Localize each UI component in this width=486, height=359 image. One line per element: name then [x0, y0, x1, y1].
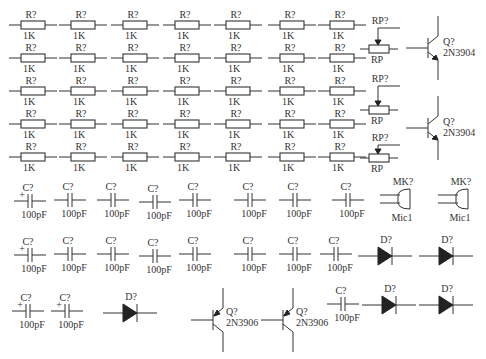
capacitor-symbol[interactable]: C?100pF	[234, 235, 267, 273]
resistor-designator: R?	[230, 9, 242, 20]
microphone-symbol[interactable]: MK?Mic1	[380, 176, 414, 223]
resistor-symbol[interactable]: R?1K	[9, 141, 57, 173]
polarized-capacitor-symbol[interactable]: +C?100pF	[14, 182, 47, 220]
npn-transistor-symbol[interactable]: Q?2N3904	[406, 96, 475, 160]
resistor-designator: R?	[127, 75, 139, 86]
resistor-symbol[interactable]: R?1K	[9, 108, 57, 140]
resistor-value: 1K	[282, 162, 295, 173]
resistor-symbol[interactable]: R?1K	[163, 9, 211, 41]
resistor-value: 1K	[332, 30, 345, 41]
diode-symbol[interactable]: D?	[103, 291, 157, 322]
resistor-symbol[interactable]: R?1K	[9, 75, 57, 107]
capacitor-designator: C?	[22, 236, 34, 247]
resistor-symbol[interactable]: R?1K	[318, 42, 366, 74]
polarized-capacitor-symbol[interactable]: +C?100pF	[14, 236, 47, 274]
resistor-symbol[interactable]: R?1K	[318, 108, 366, 140]
potentiometer-designator: RP?	[372, 73, 389, 84]
resistor-designator: R?	[75, 141, 87, 152]
capacitor-symbol[interactable]: C?100pF	[97, 235, 130, 273]
resistor-symbol[interactable]: R?1K	[111, 9, 159, 41]
resistor-value: 1K	[23, 63, 36, 74]
pnp-transistor-symbol[interactable]: Q?2N3906	[261, 288, 328, 352]
resistor-value: 1K	[228, 63, 241, 74]
capacitor-symbol[interactable]: C?100pF	[279, 235, 312, 273]
diode-designator: D?	[384, 283, 396, 294]
resistor-designator: R?	[334, 75, 346, 86]
polarized-capacitor-symbol[interactable]: +C?100pF	[51, 292, 84, 330]
resistor-symbol[interactable]: R?1K	[163, 108, 211, 140]
resistor-symbol[interactable]: R?1K	[268, 141, 316, 173]
capacitor-symbol[interactable]: C?100pF	[54, 181, 87, 219]
resistor-symbol[interactable]: R?1K	[214, 9, 262, 41]
pnp-transistor-symbol[interactable]: Q?2N3906	[191, 288, 258, 352]
resistor-symbol[interactable]: R?1K	[111, 141, 159, 173]
resistor-value: 1K	[332, 162, 345, 173]
microphone-designator: MK?	[393, 176, 414, 187]
npn-transistor-symbol[interactable]: Q?2N3904	[406, 16, 475, 80]
potentiometer-symbol[interactable]: RP?RP	[360, 73, 400, 126]
resistor-designator: R?	[25, 75, 37, 86]
resistor-symbol[interactable]: R?1K	[268, 75, 316, 107]
capacitor-symbol[interactable]: C?100pF	[332, 181, 365, 219]
capacitor-symbol[interactable]: C?100pF	[320, 235, 353, 273]
resistor-symbol[interactable]: R?1K	[9, 9, 57, 41]
diode-symbol[interactable]: D?	[419, 283, 473, 314]
resistor-designator: R?	[179, 9, 191, 20]
capacitor-symbol[interactable]: C?100pF	[54, 235, 87, 273]
polarized-capacitor-symbol[interactable]: +C?100pF	[12, 292, 45, 330]
capacitor-value: 100pF	[61, 208, 87, 219]
resistor-symbol[interactable]: R?1K	[214, 108, 262, 140]
resistor-symbol[interactable]: R?1K	[214, 141, 262, 173]
resistor-symbol[interactable]: R?1K	[111, 108, 159, 140]
resistor-value: 1K	[73, 30, 86, 41]
capacitor-designator: C?	[105, 181, 117, 192]
resistor-symbol[interactable]: R?1K	[163, 42, 211, 74]
capacitor-designator: C?	[340, 181, 352, 192]
resistor-symbol[interactable]: R?1K	[318, 75, 366, 107]
resistor-symbol[interactable]: R?1K	[214, 75, 262, 107]
capacitor-value: 100pF	[241, 208, 267, 219]
capacitor-symbol[interactable]: C?100pF	[179, 235, 212, 273]
capacitor-value: 100pF	[146, 264, 172, 275]
capacitor-designator: C?	[287, 235, 299, 246]
resistor-symbol[interactable]: R?1K	[163, 141, 211, 173]
capacitor-symbol[interactable]: C?100pF	[179, 181, 212, 219]
microphone-symbol[interactable]: MK?Mic1	[438, 176, 472, 223]
microphone-part: Mic1	[449, 212, 470, 223]
diode-symbol[interactable]: D?	[362, 283, 416, 314]
resistor-value: 1K	[73, 162, 86, 173]
capacitor-symbol[interactable]: C?100pF	[139, 237, 172, 275]
resistor-symbol[interactable]: R?1K	[59, 42, 107, 74]
resistor-symbol[interactable]: R?1K	[214, 42, 262, 74]
resistor-symbol[interactable]: R?1K	[111, 42, 159, 74]
resistor-symbol[interactable]: R?1K	[268, 42, 316, 74]
resistor-symbol[interactable]: R?1K	[111, 75, 159, 107]
resistor-symbol[interactable]: R?1K	[318, 141, 366, 173]
potentiometer-symbol[interactable]: RP?RP	[360, 132, 400, 174]
capacitor-designator: C?	[335, 285, 347, 296]
resistor-symbol[interactable]: R?1K	[59, 75, 107, 107]
transistor-designator: Q?	[443, 116, 455, 127]
resistor-symbol[interactable]: R?1K	[9, 42, 57, 74]
resistor-grid: R?1KR?1KR?1KR?1KR?1KR?1KR?1KR?1KR?1KR?1K…	[9, 9, 366, 173]
capacitor-symbol[interactable]: C?100pF	[279, 181, 312, 219]
capacitor-group: +C?100pFC?100pFC?100pFC?100pFC?100pFC?10…	[12, 181, 365, 330]
diode-symbol[interactable]: D?	[358, 234, 412, 265]
resistor-symbol[interactable]: R?1K	[318, 9, 366, 41]
capacitor-value: 100pF	[186, 208, 212, 219]
capacitor-symbol[interactable]: C?100pF	[234, 181, 267, 219]
capacitor-value: 100pF	[327, 262, 353, 273]
capacitor-symbol[interactable]: C?100pF	[139, 183, 172, 221]
potentiometer-group: RP?RPRP?RPRP?RP	[360, 15, 400, 174]
resistor-symbol[interactable]: R?1K	[268, 108, 316, 140]
resistor-symbol[interactable]: R?1K	[163, 75, 211, 107]
resistor-symbol[interactable]: R?1K	[59, 9, 107, 41]
capacitor-symbol[interactable]: C?100pF	[97, 181, 130, 219]
capacitor-value: 100pF	[19, 319, 45, 330]
capacitor-symbol[interactable]: C?100pF	[327, 285, 360, 323]
resistor-symbol[interactable]: R?1K	[268, 9, 316, 41]
resistor-symbol[interactable]: R?1K	[59, 141, 107, 173]
pnp-transistor-group: Q?2N3906Q?2N3906	[191, 288, 328, 352]
resistor-symbol[interactable]: R?1K	[59, 108, 107, 140]
diode-symbol[interactable]: D?	[419, 234, 473, 265]
